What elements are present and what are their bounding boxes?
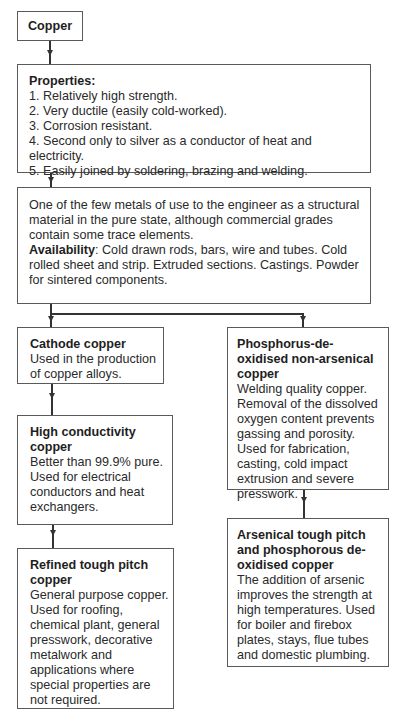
arrow-icon bbox=[49, 393, 55, 399]
properties-list: 1. Relatively high strength. 2. Very duc… bbox=[29, 89, 360, 179]
node-title: Phosphorus-de-oxidised non-arsenical cop… bbox=[237, 337, 384, 382]
node-title: Cathode copper bbox=[30, 337, 157, 352]
arrow-icon bbox=[47, 50, 53, 56]
node-arsenical-tough-pitch-copper: Arsenical tough pitch and phosphorous de… bbox=[227, 518, 389, 667]
node-text: Used in the production of copper alloys. bbox=[30, 352, 157, 382]
properties-heading: Properties: bbox=[29, 74, 360, 89]
connector-highcond-refined bbox=[52, 525, 54, 548]
availability-label: Availability bbox=[29, 243, 95, 257]
node-properties: Properties: 1. Relatively high strength.… bbox=[17, 64, 371, 173]
node-refined-tough-pitch-copper: Refined tough pitch copper General purpo… bbox=[17, 548, 174, 709]
property-item: 4. Second only to silver as a conductor … bbox=[29, 134, 360, 164]
property-item: 1. Relatively high strength. bbox=[29, 89, 360, 104]
property-item: 5. Easily joined by soldering, brazing a… bbox=[29, 164, 360, 179]
arrow-icon bbox=[50, 530, 56, 536]
node-text: Welding quality copper. Removal of the d… bbox=[237, 382, 384, 502]
arrow-icon bbox=[300, 316, 306, 322]
node-title: High conductivity copper bbox=[30, 425, 150, 455]
node-copper: Copper bbox=[17, 11, 83, 41]
node-phosphorus-deoxidised-copper: Phosphorus-de-oxidised non-arsenical cop… bbox=[227, 327, 389, 490]
property-item: 2. Very ductile (easily cold-worked). bbox=[29, 104, 360, 119]
availability: Availability: Cold drawn rods, bars, wir… bbox=[29, 243, 360, 288]
node-title: Copper bbox=[28, 19, 82, 34]
property-item: 3. Corrosion resistant. bbox=[29, 119, 360, 134]
arrow-icon bbox=[48, 316, 54, 322]
node-high-conductivity-copper: High conductivity copper Better than 99.… bbox=[17, 415, 173, 525]
node-title: Refined tough pitch copper bbox=[30, 558, 155, 588]
node-text: General purpose copper. Used for roofing… bbox=[30, 588, 169, 708]
node-text: The addition of arsenic improves the str… bbox=[237, 573, 384, 663]
node-title: Arsenical tough pitch and phosphorous de… bbox=[237, 528, 367, 573]
connector-cathode-highcond bbox=[51, 384, 53, 415]
node-description: One of the few metals of use to the engi… bbox=[17, 187, 371, 304]
node-text: Better than 99.9% pure. Used for electri… bbox=[30, 455, 166, 515]
node-cathode-copper: Cathode copper Used in the production of… bbox=[17, 327, 164, 384]
description-text: One of the few metals of use to the engi… bbox=[29, 198, 360, 243]
connector-branch-horizontal bbox=[50, 313, 304, 315]
